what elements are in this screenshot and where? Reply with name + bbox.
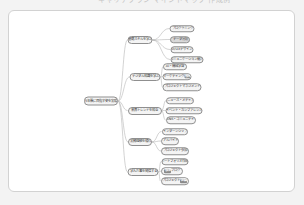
mindmap-node-b4c2[interactable]: アルバイト [161, 137, 179, 145]
connector-line [153, 40, 171, 41]
mindmap-node-b1c2[interactable]: データ分析 [170, 36, 190, 44]
connector-line [152, 141, 161, 142]
node-label-part: マーケティング [163, 75, 184, 78]
mindmap-node-b1c1[interactable]: プログラミング [170, 25, 195, 33]
mindmap-node-b3c1[interactable]: ニュース・メディア [166, 97, 194, 105]
mindmap-node-b2c3[interactable]: プロジェクトマネジメント [163, 83, 202, 91]
mindmap-node-b3c3[interactable]: SNS・コミュニティ [166, 116, 196, 124]
highlighted-label-part: 戦略 [184, 74, 191, 78]
mindmap-node-b5c3[interactable]: プロジェクト記録 [161, 177, 189, 185]
mindmap-node-b4c1[interactable]: インターンシップ [162, 128, 188, 136]
mindmap-node-b2c1[interactable]: AI・機械学習 [163, 63, 187, 71]
connector-line [118, 101, 128, 172]
mindmap-node-b5c2[interactable]: 執筆 ブログ [161, 167, 183, 175]
connector-line [118, 101, 128, 142]
mindmap-node-b3c2[interactable]: イベント・カンファレンス [166, 107, 203, 115]
mindmap-node-b2c2[interactable]: マーケティング戦略 [163, 73, 192, 81]
connector-line [153, 40, 171, 60]
mindmap-node-b1c3[interactable]: UI/UXデザイン [170, 46, 193, 54]
mindmap-root-node[interactable]: 5年後に目指す姿を実現 [84, 97, 118, 106]
node-label-part: ブログ [171, 169, 180, 172]
mindmap-node-b4c3[interactable]: プロジェクト参加 [161, 147, 189, 155]
connector-line [118, 101, 128, 111]
connector-line [118, 40, 128, 101]
mindmap-node-b3[interactable]: 業界トレンドを知る [128, 107, 162, 115]
mindmap-node-b2[interactable]: デジタル知識を学ぶ [130, 73, 161, 81]
mindmap-node-b5c1[interactable]: ポートフォリオ作成 [161, 158, 188, 166]
mindmap-node-b4[interactable]: 実務経験を積む [128, 138, 152, 146]
highlighted-label-part: 記録 [180, 179, 187, 183]
mindmap-node-b1[interactable]: 基礎スキルを学ぶ [128, 36, 153, 44]
node-label-part: プロジェクト [162, 179, 180, 182]
connector-line [152, 142, 161, 151]
highlighted-label-part: 執筆 [164, 169, 171, 173]
connector-line [118, 77, 130, 101]
connector-line [153, 40, 171, 50]
connector-line [153, 29, 170, 41]
mindmap-canvas: 5年後に目指す姿を実現基礎スキルを学ぶプログラミングデータ分析UI/UXデザイン… [0, 0, 304, 205]
mindmap-node-b5[interactable]: 学んだ事を発信する [128, 168, 159, 176]
